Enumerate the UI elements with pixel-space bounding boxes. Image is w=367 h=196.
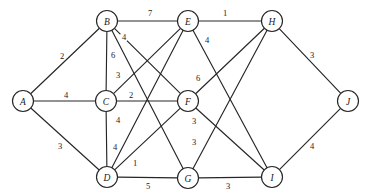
- nodes-group: ABCDEFGHIJ: [13, 11, 359, 189]
- edge-weight-backdrop: [55, 141, 64, 150]
- edge-weight-backdrop: [126, 90, 135, 99]
- edge-weight-backdrop: [61, 90, 70, 99]
- edge-weight-backdrop: [145, 8, 154, 17]
- edge-weight-backdrop: [110, 142, 119, 151]
- edge-weight-backdrop: [189, 116, 198, 125]
- node-circle-h[interactable]: [262, 11, 283, 32]
- edge-weight-backdrop: [189, 137, 198, 146]
- edge-weight-backdrop: [57, 51, 66, 60]
- edge-weight-backdrop: [119, 32, 128, 41]
- node-circle-e[interactable]: [178, 11, 199, 32]
- node-circle-a[interactable]: [13, 91, 34, 112]
- graph-edge-c-d: [106, 112, 107, 167]
- node-circle-j[interactable]: [338, 91, 359, 112]
- edge-weight-backdrop: [193, 73, 202, 82]
- edge-weight-backdrop: [143, 181, 152, 190]
- graph-edge-d-f: [115, 108, 181, 170]
- graph-edge-i-j: [279, 108, 340, 169]
- edge-weight-backdrop: [307, 50, 316, 59]
- edge-weight-backdrop: [113, 70, 122, 79]
- graph-edge-a-b: [31, 28, 100, 94]
- edge-weight-backdrop: [108, 50, 117, 59]
- node-circle-d[interactable]: [97, 167, 118, 188]
- graph-node-d[interactable]: D: [97, 167, 118, 188]
- graph-node-g[interactable]: G: [178, 168, 199, 189]
- edge-weight-backdrop: [223, 181, 232, 190]
- graph-canvas: 24374632441351463334 ABCDEFGHIJ: [0, 0, 367, 196]
- node-circle-c[interactable]: [96, 91, 117, 112]
- graph-node-a[interactable]: A: [13, 91, 34, 112]
- graph-edge-d-g: [118, 177, 178, 178]
- edge-weight-backdrop: [202, 35, 211, 44]
- graph-node-c[interactable]: C: [96, 91, 117, 112]
- edge-weight-backdrop: [130, 158, 139, 167]
- weighted-graph-diagram: 24374632441351463334 ABCDEFGHIJ: [0, 0, 367, 196]
- graph-node-i[interactable]: I: [262, 167, 283, 188]
- graph-edge-f-i: [196, 108, 264, 170]
- graph-node-f[interactable]: F: [178, 91, 199, 112]
- graph-node-e[interactable]: E: [178, 11, 199, 32]
- edge-weight-backdrop: [220, 8, 229, 17]
- node-circle-b[interactable]: [97, 11, 118, 32]
- edge-weight-backdrop: [307, 141, 316, 150]
- graph-edge-h-j: [279, 29, 341, 94]
- graph-edge-g-i: [199, 177, 262, 178]
- graph-node-h[interactable]: H: [262, 11, 283, 32]
- node-circle-g[interactable]: [178, 168, 199, 189]
- graph-edge-b-c: [106, 32, 107, 91]
- edge-weight-backdrop: [113, 115, 122, 124]
- graph-node-b[interactable]: B: [97, 11, 118, 32]
- graph-edge-a-d: [31, 108, 99, 170]
- graph-node-j[interactable]: J: [338, 91, 359, 112]
- node-circle-f[interactable]: [178, 91, 199, 112]
- node-circle-i[interactable]: [262, 167, 283, 188]
